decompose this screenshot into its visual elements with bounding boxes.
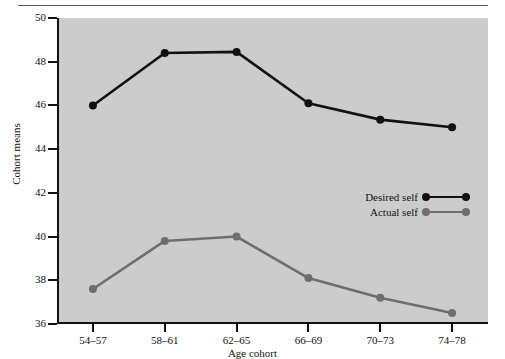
x-axis-tick xyxy=(236,324,238,332)
y-axis-tick-label-wrap: 42 xyxy=(0,187,46,198)
x-axis-tick xyxy=(379,324,381,332)
y-axis-tick-label-wrap: 38 xyxy=(0,274,46,285)
data-point xyxy=(304,274,312,282)
legend-item-label: Actual self xyxy=(370,206,418,218)
data-point xyxy=(448,123,456,131)
y-axis-tick-label: 50 xyxy=(6,12,46,23)
y-axis-tick-label-wrap: 40 xyxy=(0,231,46,242)
x-axis-tick-label: 70–73 xyxy=(345,334,415,346)
y-axis-tick xyxy=(48,192,57,194)
y-axis-tick-label-wrap: 48 xyxy=(0,56,46,67)
y-axis-tick-label-wrap: 44 xyxy=(0,143,46,154)
x-axis-tick-label: 74–78 xyxy=(417,334,487,346)
x-axis-title: Age cohort xyxy=(0,347,505,359)
data-point xyxy=(304,99,312,107)
series-line-desired-self xyxy=(93,52,452,127)
data-point xyxy=(376,294,384,302)
data-point xyxy=(89,285,97,293)
y-axis-tick-label: 48 xyxy=(6,56,46,67)
data-point xyxy=(233,48,241,56)
legend-item-swatch xyxy=(422,191,470,203)
x-axis-tick-label: 54–57 xyxy=(58,334,128,346)
data-point xyxy=(233,233,241,241)
chart-plot-svg xyxy=(57,18,488,324)
legend-item-swatch xyxy=(422,206,470,218)
data-point xyxy=(448,309,456,317)
y-axis-tick xyxy=(48,17,57,19)
y-axis-tick xyxy=(48,279,57,281)
x-axis-tick xyxy=(164,324,166,332)
data-point xyxy=(89,101,97,109)
y-axis-tick xyxy=(48,323,57,325)
legend-item: Desired self xyxy=(330,189,470,204)
data-point xyxy=(161,49,169,57)
data-point xyxy=(376,116,384,124)
y-axis-tick-label: 40 xyxy=(6,231,46,242)
y-axis-tick xyxy=(48,104,57,106)
x-axis-tick xyxy=(451,324,453,332)
x-axis-tick xyxy=(307,324,309,332)
chart-legend: Desired selfActual self xyxy=(330,189,470,219)
y-axis-tick-label-wrap: 36 xyxy=(0,318,46,329)
legend-item-label: Desired self xyxy=(365,191,418,203)
x-axis-tick-label: 58–61 xyxy=(130,334,200,346)
legend-item: Actual self xyxy=(330,204,470,219)
top-rule-divider xyxy=(18,5,488,6)
y-axis-tick-label-wrap: 50 xyxy=(0,12,46,23)
x-axis-tick-label: 66–69 xyxy=(273,334,343,346)
x-axis-tick-label: 62–65 xyxy=(202,334,272,346)
data-point xyxy=(161,237,169,245)
y-axis-tick-label: 38 xyxy=(6,274,46,285)
y-axis-tick xyxy=(48,236,57,238)
x-axis-tick xyxy=(92,324,94,332)
y-axis-tick xyxy=(48,61,57,63)
y-axis-tick xyxy=(48,148,57,150)
series-line-actual-self xyxy=(93,237,452,314)
y-axis-tick-label-wrap: 46 xyxy=(0,99,46,110)
y-axis-title: Cohort means xyxy=(10,94,22,214)
y-axis-tick-label: 36 xyxy=(6,318,46,329)
